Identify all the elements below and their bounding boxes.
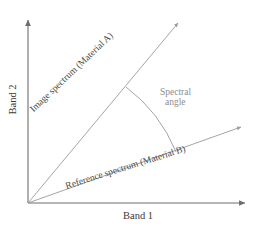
- y-axis-label: Band 2: [7, 89, 18, 115]
- spectral-angle-figure: Band 2 Band 1 Image spectrum (Material A…: [0, 0, 263, 234]
- spectral-angle-label-line2: angle: [160, 98, 191, 108]
- x-axis-label: Band 1: [98, 210, 178, 221]
- spectral-angle-label: Spectral angle: [160, 88, 191, 108]
- spectral-angle-label-line1: Spectral: [160, 87, 191, 97]
- diagram-canvas: [0, 0, 263, 234]
